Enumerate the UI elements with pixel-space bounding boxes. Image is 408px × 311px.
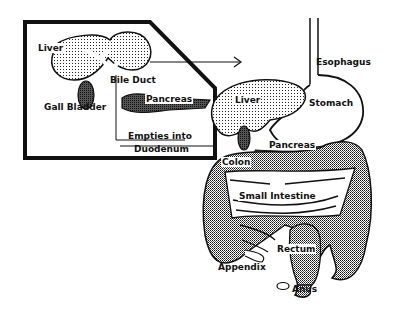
label-anus: Anus [292,284,317,294]
inset-label-pancreas: Pancreas [145,94,193,104]
label-appendix: Appendix [218,262,266,272]
label-rectum: Rectum [276,244,316,254]
label-colon: Colon [221,157,251,167]
gall-bladder [238,126,250,150]
inset-label-bile-duct: Bile Duct [110,75,156,85]
label-esophagus: Esophagus [316,57,371,67]
inset-label-duodenum-text: Duodenum [134,144,189,154]
anus [277,283,289,290]
label-stomach: Stomach [309,98,353,108]
rectum [289,224,320,285]
appendix [245,250,264,262]
inset-liver [52,32,185,140]
label-liver: Liver [234,95,261,105]
inset-label-liver: Liver [37,43,64,53]
inset-label-gall-bladder: Gall Bladder [44,102,106,112]
label-small-intestine: Small Intestine [238,191,317,201]
esophagus [310,18,318,85]
inset-label-empties-into: Empties into [128,131,192,141]
label-pancreas: Pancreas [268,140,316,150]
